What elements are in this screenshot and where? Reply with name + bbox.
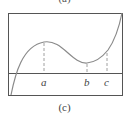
label-b: b <box>84 76 90 88</box>
cubic-function-graph: a b c <box>0 0 129 116</box>
label-a: a <box>41 76 47 88</box>
label-c: c <box>104 76 109 88</box>
figure-caption: (c) <box>0 101 129 113</box>
